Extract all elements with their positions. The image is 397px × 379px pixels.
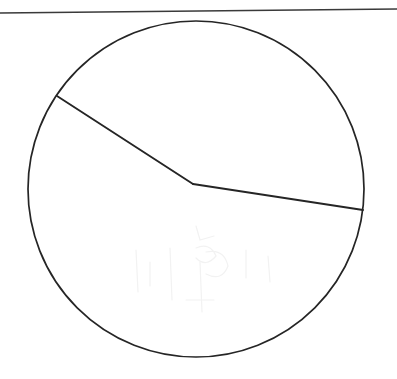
- ghost-bleedthrough-group: [136, 226, 270, 312]
- geometry-figure-canvas: [0, 0, 397, 379]
- upper-chord-segment: [57, 96, 193, 184]
- lower-chord-segment: [193, 184, 363, 210]
- main-circle: [28, 21, 364, 357]
- figure-page: [0, 0, 397, 379]
- top-horizontal-rule: [0, 9, 397, 13]
